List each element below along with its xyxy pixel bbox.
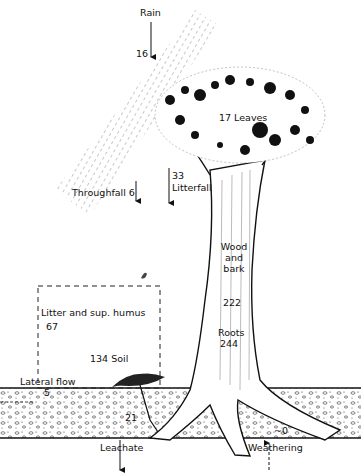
roots-label: Roots	[218, 327, 244, 338]
weathering-label: Weathering	[248, 442, 303, 453]
wood-label-3: bark	[219, 263, 249, 274]
litter-value: 67	[46, 321, 58, 332]
leachate-label: Leachate	[100, 442, 143, 453]
soil-label: 134 Soil	[90, 353, 128, 364]
lateral-flow-value: 5	[44, 387, 50, 398]
leachate-value: 21	[125, 412, 137, 423]
litter-label: Litter and sup. humus	[41, 307, 145, 318]
rain-value: 16	[136, 48, 148, 59]
litterfall-value: 33	[172, 170, 184, 181]
wood-label-1: Wood	[219, 241, 249, 252]
lateral-flow-label: Lateral flow	[20, 376, 76, 387]
ecosystem-illustration	[0, 0, 361, 474]
wood-value: 222	[223, 297, 241, 308]
litterfall-label: Litterfall	[172, 182, 212, 193]
rain-label: Rain	[140, 7, 161, 18]
litter-box	[38, 286, 160, 388]
wood-label-2: and	[219, 252, 249, 263]
leaves-label: 17 Leaves	[219, 112, 267, 123]
leaf-icon	[141, 273, 147, 279]
throughfall-label: Throughfall 6	[72, 187, 135, 198]
weathering-value: ~0	[274, 425, 288, 436]
roots-value: 244	[220, 338, 238, 349]
